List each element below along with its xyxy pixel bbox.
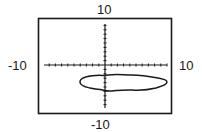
ymin-label: -10 — [91, 118, 110, 131]
xmax-label: 10 — [179, 59, 193, 72]
xmin-label: -10 — [8, 59, 27, 72]
graph-canvas — [0, 0, 202, 132]
curve-closed-ellipse — [80, 75, 167, 92]
y-axis — [104, 24, 107, 108]
ymax-label: 10 — [97, 3, 111, 16]
